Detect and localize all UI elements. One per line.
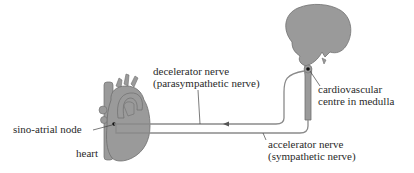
medulla-icon [304,65,312,120]
decelerator-label-line1: decelerator nerve [153,65,260,77]
accelerator-nerve-label: accelerator nerve (sympathetic nerve) [268,138,356,162]
accelerator-leader [263,133,266,140]
arrow-left-icon [223,122,229,127]
heart-label-text: heart [76,147,98,159]
brain-icon [286,4,351,66]
heart-label: heart [76,147,98,159]
cardiovascular-centre-dot [306,67,310,71]
sino-atrial-label-text: sino-atrial node [13,123,82,135]
decelerator-leader [198,90,200,124]
accelerator-label-line1: accelerator nerve [268,138,356,150]
heart-icon [99,74,150,161]
cardiovascular-centre-label: cardiovascular centre in medulla [318,83,394,107]
cardiovascular-label-line1: cardiovascular [318,83,394,95]
accelerator-label-line2: (sympathetic nerve) [268,150,356,162]
cardiovascular-label-line2: centre in medulla [318,95,394,107]
decelerator-nerve-label: decelerator nerve (parasympathetic nerve… [153,65,260,89]
decelerator-label-line2: (parasympathetic nerve) [153,77,260,89]
sino-atrial-node-label: sino-atrial node [13,123,82,135]
